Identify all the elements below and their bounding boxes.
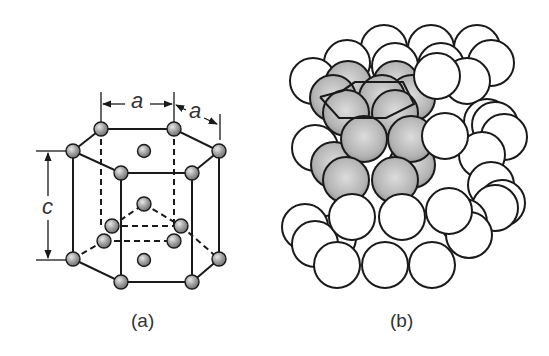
- caption-a: (a): [131, 310, 154, 332]
- atom: [212, 252, 226, 266]
- atom: [105, 219, 119, 233]
- caption-b: (b): [390, 310, 413, 332]
- atom: [94, 122, 108, 136]
- atom: [167, 234, 181, 248]
- atom: [138, 145, 151, 158]
- atom: [167, 122, 181, 136]
- dimension-label-a2: a: [189, 100, 201, 122]
- white-spheres-bottom: [282, 188, 472, 288]
- dimension-label-a: a: [131, 90, 143, 112]
- panel-b-sphere-packing: [282, 25, 527, 288]
- atom: [114, 166, 128, 180]
- atom: [97, 234, 111, 248]
- figure-canvas: [0, 0, 549, 356]
- atom: [138, 254, 151, 267]
- atom: [114, 275, 128, 289]
- atom: [66, 252, 80, 266]
- dimension-label-c: c: [42, 196, 53, 218]
- atom: [212, 144, 226, 158]
- atoms: [66, 122, 226, 289]
- figure: a a c (a) (b): [0, 0, 549, 356]
- atom: [66, 144, 80, 158]
- atom: [185, 275, 199, 289]
- atom: [174, 219, 188, 233]
- atom: [137, 197, 151, 211]
- atom: [185, 166, 199, 180]
